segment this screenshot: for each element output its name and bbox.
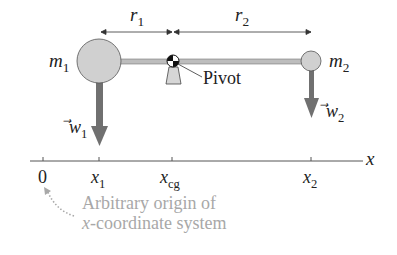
origin-note-line2: x-coordinate system bbox=[82, 213, 226, 234]
x-axis bbox=[30, 157, 363, 161]
m2-label: m2 bbox=[329, 50, 349, 76]
origin-note-line1: Arbitrary origin of bbox=[82, 193, 216, 214]
x-axis-label: x bbox=[366, 148, 374, 170]
r2-dimension-arrow bbox=[174, 30, 311, 35]
rod bbox=[100, 59, 312, 64]
pivot-leader-line bbox=[178, 64, 202, 77]
w1-label: ⃗w1 bbox=[69, 116, 87, 142]
x2-label: x2 bbox=[303, 167, 317, 192]
pivot-label: Pivot bbox=[203, 68, 241, 89]
w2-label: ⃗w2 bbox=[326, 100, 344, 126]
pivot-support bbox=[166, 67, 181, 84]
weight-arrow-1 bbox=[91, 80, 108, 146]
xcg-label: xcg bbox=[160, 167, 180, 192]
mass-1 bbox=[77, 39, 121, 83]
center-of-gravity-icon bbox=[167, 55, 179, 67]
x1-label: x1 bbox=[91, 167, 105, 192]
weight-arrow-2 bbox=[304, 70, 319, 118]
origin-pointer-arrow bbox=[44, 187, 74, 216]
r1-label: r1 bbox=[130, 4, 144, 30]
origin-label: 0 bbox=[38, 167, 47, 188]
mass-2 bbox=[301, 51, 321, 71]
m1-label: m1 bbox=[49, 50, 69, 76]
r2-label: r2 bbox=[235, 4, 249, 30]
r1-dimension-arrow bbox=[101, 30, 172, 35]
